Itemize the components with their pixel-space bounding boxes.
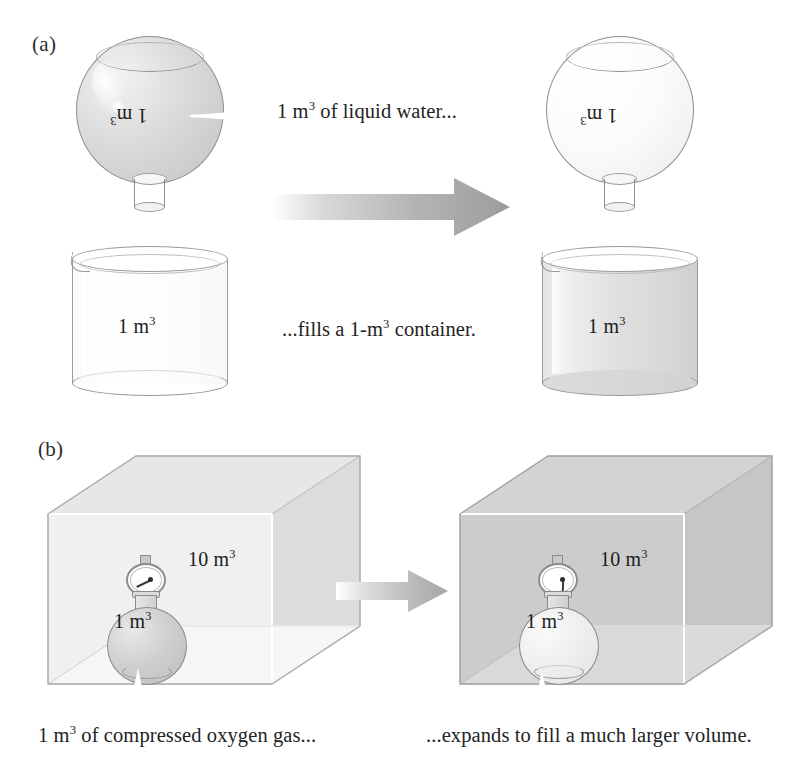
flask-right-empty xyxy=(546,36,694,211)
beaker-sheen xyxy=(552,264,572,374)
panel-a-transition-arrow xyxy=(272,176,522,240)
leader-caption-to-gas-flask-left xyxy=(118,668,158,726)
flask-neck-base xyxy=(134,202,165,212)
gas-flask-left-volume-label: 1 m3 xyxy=(114,610,152,633)
cube-left-empty xyxy=(40,448,370,698)
caption-liquid-water: 1 m3 of liquid water... xyxy=(277,100,457,123)
flask-right-volume-label: 1 m3 xyxy=(580,104,618,127)
flask-neck-base xyxy=(604,202,635,212)
caption-compressed-oxygen: 1 m3 of compressed oxygen gas... xyxy=(38,724,316,747)
pressure-gauge-hub xyxy=(560,577,565,582)
cube-right-volume-label: 10 m3 xyxy=(600,548,648,571)
panel-a-label: (a) xyxy=(32,32,56,57)
panel-b-transition-arrow xyxy=(336,568,456,616)
beaker-right-volume-label: 1 m3 xyxy=(588,315,626,338)
beaker-inner-rim xyxy=(80,254,220,274)
caption-expands-volume: ...expands to fill a much larger volume. xyxy=(426,724,752,747)
beaker-sheen xyxy=(82,264,102,374)
beaker-bottom xyxy=(72,370,228,396)
beaker-inner-rim xyxy=(550,254,690,274)
leader-flask-to-caption xyxy=(185,104,275,128)
leader-caption-to-cube-right xyxy=(522,672,562,726)
beaker-left-volume-label: 1 m3 xyxy=(118,315,156,338)
flask-left-volume-label: 1 m3 xyxy=(110,104,148,127)
gas-flask-right-volume-label: 1 m3 xyxy=(526,610,564,633)
cube-left-volume-label: 10 m3 xyxy=(188,548,236,571)
cube-right-filled xyxy=(452,448,782,698)
beaker-bottom xyxy=(542,370,698,396)
figure-canvas: (a) 1 m3 1 m3 of liquid water... xyxy=(0,0,800,763)
pressure-gauge-hub xyxy=(148,577,153,582)
caption-fills-container: ...fills a 1-m3 container. xyxy=(282,318,476,341)
pressure-gauge-face xyxy=(542,567,574,593)
